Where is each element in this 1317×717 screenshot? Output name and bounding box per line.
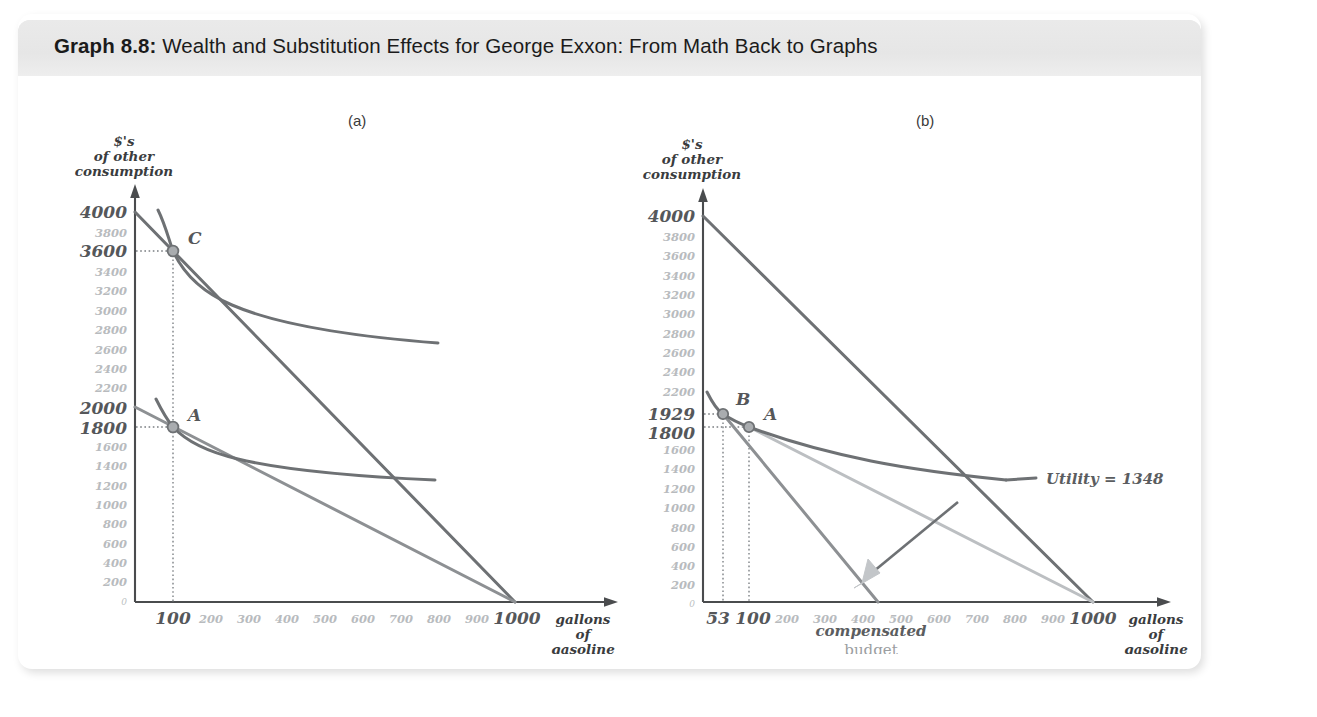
y-tick-3000: 3000 <box>95 304 127 318</box>
x-tick-600: 600 <box>351 612 375 626</box>
y-axis-arrowhead <box>698 188 708 202</box>
point-marker-b <box>718 409 728 419</box>
x-tick-900: 900 <box>1041 612 1065 626</box>
y-tick-1800: 1800 <box>648 423 695 443</box>
y-tick-3800: 3800 <box>663 230 695 244</box>
y-tick-4000: 4000 <box>80 202 127 222</box>
y-tick-zero: 0 <box>121 597 127 607</box>
point-marker-c <box>168 246 179 257</box>
panel-a-y-axis-title: $'s of other consumption <box>75 133 173 179</box>
y-axis-title-line-3: consumption <box>75 163 173 179</box>
point-label-a: A <box>186 405 201 425</box>
panel-b-chart: $'s of other consumption 4000 3800 3600 … <box>606 124 1201 654</box>
panel-b-x-axis-title: gallons of gasoline <box>1124 611 1188 654</box>
utility-label: Utility = 1348 <box>1046 470 1164 488</box>
x-tick-200: 200 <box>198 612 223 626</box>
figure-caption-title: Wealth and Substitution Effects for Geor… <box>156 34 877 57</box>
y-tick-800: 800 <box>671 521 695 535</box>
compensated-budget-label-bold: compensated <box>815 622 927 640</box>
y-tick-800: 800 <box>103 517 127 531</box>
x-tick-100: 100 <box>735 608 771 628</box>
y-tick-1600: 1600 <box>663 443 695 457</box>
panel-b-guide-lines <box>704 414 749 602</box>
x-tick-900: 900 <box>465 612 489 626</box>
point-marker-a <box>168 422 179 433</box>
x-axis-arrowhead <box>1157 597 1171 607</box>
y-axis-arrowhead <box>130 184 140 198</box>
y-tick-2800: 2800 <box>94 323 127 337</box>
y-tick-4000: 4000 <box>648 206 695 226</box>
panel-b-y-axis-title: $'s of other consumption <box>643 136 741 182</box>
x-axis-title-line-3: gasoline <box>1124 641 1188 654</box>
panel-a-y-ticks: 4000 3800 3600 3400 3200 3000 2800 2600 … <box>79 202 128 607</box>
y-tick-1400: 1400 <box>95 459 127 473</box>
y-tick-2400: 2400 <box>94 362 127 376</box>
point-label-b: B <box>735 389 750 409</box>
utility-leader-line <box>1006 478 1036 480</box>
y-tick-2400: 2400 <box>662 365 695 379</box>
x-tick-100: 100 <box>155 608 191 628</box>
y-tick-400: 400 <box>103 556 127 570</box>
x-axis-title-line-1: gallons <box>556 611 611 627</box>
y-tick-200: 200 <box>102 575 127 589</box>
y-tick-2000: 2000 <box>79 398 127 418</box>
x-tick-400: 400 <box>275 612 299 626</box>
y-tick-3000: 3000 <box>663 307 695 321</box>
compensated-budget-line <box>723 414 878 602</box>
y-tick-3400: 3400 <box>663 269 695 283</box>
x-tick-700: 700 <box>389 612 413 626</box>
x-axis-title-line-2: of <box>1149 626 1166 642</box>
x-axis-title-line-2: of <box>576 626 593 642</box>
figure-caption-label: Graph 8.8: <box>54 34 156 57</box>
y-tick-1200: 1200 <box>663 482 695 496</box>
y-axis-title-line-1: $'s <box>681 136 703 152</box>
figure-caption: Graph 8.8: Wealth and Substitution Effec… <box>54 34 878 58</box>
budget-line-high <box>703 216 1093 602</box>
x-tick-1000: 1000 <box>1069 608 1116 628</box>
x-tick-800: 800 <box>1003 612 1027 626</box>
x-axis-title-line-1: gallons <box>1129 611 1184 627</box>
y-tick-1000: 1000 <box>663 501 695 515</box>
y-tick-zero: 0 <box>689 599 695 609</box>
x-tick-53: 53 <box>706 608 730 628</box>
y-tick-2200: 2200 <box>662 385 695 399</box>
y-tick-3800: 3800 <box>95 226 127 240</box>
y-tick-3200: 3200 <box>95 284 127 298</box>
compensated-budget-label-plain: budget <box>844 641 897 654</box>
y-tick-3400: 3400 <box>95 265 127 279</box>
y-axis-title-line-2: of other <box>662 151 723 167</box>
point-marker-a <box>744 422 754 432</box>
y-tick-2600: 2600 <box>94 343 127 357</box>
x-tick-500: 500 <box>313 612 337 626</box>
y-tick-2200: 2200 <box>94 381 127 395</box>
y-tick-400: 400 <box>671 559 695 573</box>
panel-b-axes <box>698 188 1171 607</box>
figure-card: Graph 8.8: Wealth and Substitution Effec… <box>18 14 1201 669</box>
y-tick-1800: 1800 <box>80 418 127 438</box>
budget-line-low <box>749 427 1093 602</box>
y-tick-1929: 1929 <box>648 404 695 424</box>
x-tick-600: 600 <box>927 612 951 626</box>
y-tick-1000: 1000 <box>95 498 127 512</box>
y-tick-600: 600 <box>671 540 695 554</box>
y-tick-3600: 3600 <box>663 249 695 263</box>
panel-a-x-ticks: 100 200 300 400 500 600 700 800 900 1000 <box>155 608 541 628</box>
y-tick-200: 200 <box>670 578 695 592</box>
x-tick-800: 800 <box>427 612 451 626</box>
y-tick-1400: 1400 <box>663 462 695 476</box>
y-tick-2800: 2800 <box>662 327 695 341</box>
y-axis-title-line-1: $'s <box>113 133 135 149</box>
y-tick-1600: 1600 <box>95 440 127 454</box>
budget-line-low <box>135 407 515 602</box>
y-tick-3600: 3600 <box>80 241 127 261</box>
panel-a-axes <box>130 184 618 607</box>
y-tick-600: 600 <box>103 537 127 551</box>
point-label-c: C <box>188 228 202 248</box>
indifference-curve <box>707 392 1006 480</box>
point-label-a: A <box>762 404 777 424</box>
x-tick-700: 700 <box>965 612 989 626</box>
y-tick-1200: 1200 <box>95 479 127 493</box>
y-axis-title-line-2: of other <box>94 148 155 164</box>
y-tick-2600: 2600 <box>662 346 695 360</box>
y-axis-title-line-3: consumption <box>643 166 741 182</box>
